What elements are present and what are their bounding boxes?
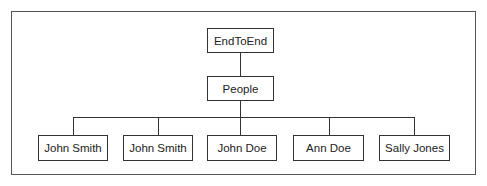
node-root: EndToEnd: [207, 28, 274, 53]
connector-leaf-2: [158, 117, 159, 135]
connector-leaf-1: [73, 117, 74, 135]
node-leaf-3: John Doe: [207, 135, 277, 161]
node-label: Ann Doe: [306, 142, 351, 154]
node-people: People: [207, 76, 274, 101]
node-leaf-5: Sally Jones: [379, 135, 450, 161]
connector-root-to-people: [240, 53, 241, 77]
node-label: John Smith: [129, 142, 187, 154]
node-label: John Smith: [44, 142, 102, 154]
connector-people-to-bus: [240, 100, 241, 118]
node-leaf-4: Ann Doe: [293, 135, 364, 161]
node-label: EndToEnd: [214, 35, 267, 47]
connector-leaf-5: [414, 117, 415, 135]
connector-bus: [73, 117, 415, 118]
connector-leaf-3: [240, 117, 241, 135]
node-label: People: [223, 83, 259, 95]
node-leaf-2: John Smith: [123, 135, 193, 161]
node-label: Sally Jones: [385, 142, 444, 154]
connector-leaf-4: [329, 117, 330, 135]
node-label: John Doe: [217, 142, 266, 154]
node-leaf-1: John Smith: [38, 135, 108, 161]
